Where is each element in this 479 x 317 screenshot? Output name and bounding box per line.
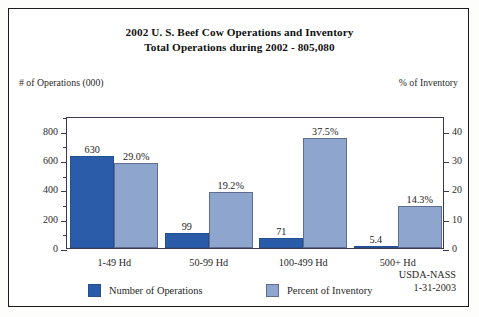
left-axis-tick-label: 0 xyxy=(53,243,58,254)
left-axis-tick xyxy=(61,162,67,163)
bar-value-label: 14.3% xyxy=(398,194,442,205)
chart-subtitle: Total Operations during 2002 - 805,080 xyxy=(9,40,470,55)
right-axis-tick xyxy=(443,221,449,222)
left-axis-tick-label: 600 xyxy=(43,155,58,166)
chart-legend: Number of OperationsPercent of Inventory xyxy=(88,283,418,299)
right-axis-tick-label: 0 xyxy=(452,243,457,254)
right-axis-tick-label: 30 xyxy=(452,155,462,166)
right-axis-tick xyxy=(443,191,449,192)
bar-value-label: 71 xyxy=(259,226,303,237)
category-label-1: 1-49 Hd xyxy=(67,257,162,268)
source-agency: USDA-NASS xyxy=(399,269,456,282)
right-axis-tick-label: 20 xyxy=(452,184,462,195)
legend-swatch-icon xyxy=(88,284,101,297)
left-axis-tick xyxy=(61,133,67,134)
bar-number-of-operations xyxy=(70,156,114,248)
left-axis-tick-label: 800 xyxy=(43,126,58,137)
bar-value-label: 29.0% xyxy=(114,151,158,162)
source-date: 1-31-2003 xyxy=(399,282,456,295)
right-axis-tick xyxy=(443,133,449,134)
legend-swatch-icon xyxy=(266,284,279,297)
left-axis-minor-tick xyxy=(63,147,67,148)
bar-number-of-operations xyxy=(354,246,398,249)
right-axis-tick-label: 40 xyxy=(452,126,462,137)
bar-value-label: 630 xyxy=(70,144,114,155)
right-axis-label: % of Inventory xyxy=(399,77,458,88)
bar-value-label: 5.4 xyxy=(354,234,398,245)
legend-item-2[interactable]: Percent of Inventory xyxy=(266,283,372,298)
chart-title: 2002 U. S. Beef Cow Operations and Inven… xyxy=(9,25,470,40)
right-axis-tick xyxy=(443,162,449,163)
left-axis-minor-tick xyxy=(63,206,67,207)
category-label-2: 50-99 Hd xyxy=(162,257,257,268)
right-axis-tick xyxy=(443,250,449,251)
category-label-3: 100-499 Hd xyxy=(256,257,351,268)
left-axis-tick xyxy=(61,250,67,251)
bar-percent-of-inventory xyxy=(114,163,158,248)
legend-label: Number of Operations xyxy=(109,285,203,296)
left-axis-tick-label: 200 xyxy=(43,214,58,225)
legend-item-1[interactable]: Number of Operations xyxy=(88,283,203,298)
left-axis-minor-tick xyxy=(63,177,67,178)
chart-figure: 2002 U. S. Beef Cow Operations and Inven… xyxy=(0,0,479,317)
left-axis-tick xyxy=(61,221,67,222)
bar-value-label: 99 xyxy=(165,221,209,232)
bar-number-of-operations xyxy=(259,238,303,248)
left-axis-label: # of Operations (000) xyxy=(19,77,104,88)
chart-frame: 2002 U. S. Beef Cow Operations and Inven… xyxy=(8,8,469,307)
left-axis-tick-label: 400 xyxy=(43,184,58,195)
chart-title-block: 2002 U. S. Beef Cow Operations and Inven… xyxy=(9,25,470,54)
left-axis-minor-tick xyxy=(63,235,67,236)
plot-area: 020040060080001020304063029.0%1-49 Hd991… xyxy=(66,117,444,249)
bar-percent-of-inventory xyxy=(398,206,442,248)
bar-value-label: 37.5% xyxy=(303,126,347,137)
left-axis-tick xyxy=(61,191,67,192)
right-axis-tick-label: 10 xyxy=(452,214,462,225)
legend-label: Percent of Inventory xyxy=(287,285,372,296)
bar-number-of-operations xyxy=(165,233,209,248)
left-axis-minor-tick xyxy=(63,118,67,119)
bar-percent-of-inventory xyxy=(303,138,347,248)
bar-percent-of-inventory xyxy=(209,192,253,248)
bar-value-label: 19.2% xyxy=(209,180,253,191)
category-label-4: 500+ Hd xyxy=(351,257,446,268)
source-credit: USDA-NASS 1-31-2003 xyxy=(399,269,456,294)
